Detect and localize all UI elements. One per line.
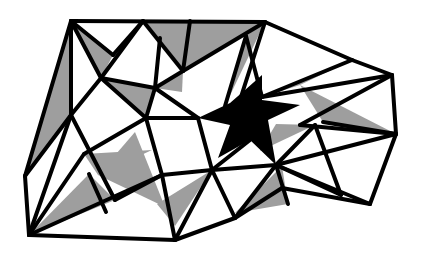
edge-line [212, 165, 276, 170]
edge-line [198, 118, 212, 170]
edge-line [276, 134, 396, 165]
edge-line [25, 176, 29, 235]
edge-line [155, 88, 198, 118]
edge-line [29, 235, 175, 240]
edge-line [282, 188, 370, 204]
edge-line [71, 78, 101, 115]
edge-line [352, 60, 392, 75]
edge-line [155, 38, 160, 88]
edge-line [370, 134, 396, 204]
edge-line [212, 170, 235, 218]
triangulation-diagram [0, 0, 421, 257]
edge-line [162, 170, 212, 175]
edge-line [71, 21, 265, 22]
edge-line [265, 22, 352, 60]
edge-line [392, 75, 396, 134]
